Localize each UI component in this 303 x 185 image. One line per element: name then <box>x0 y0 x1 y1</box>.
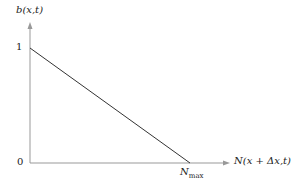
decreasing-line <box>30 48 190 163</box>
y-tick-0: 0 <box>17 156 23 167</box>
y-axis-arrow-icon <box>28 22 33 29</box>
x-tick-nmax-main: N <box>180 166 189 177</box>
x-axis-label: N(x + Δx,t) <box>234 155 291 166</box>
y-tick-1: 1 <box>16 41 22 52</box>
y-axis-label: b(x,t) <box>16 4 43 15</box>
x-axis-arrow-icon <box>223 161 230 166</box>
x-tick-nmax: Nmax <box>180 166 204 180</box>
x-tick-nmax-sub: max <box>189 172 204 180</box>
